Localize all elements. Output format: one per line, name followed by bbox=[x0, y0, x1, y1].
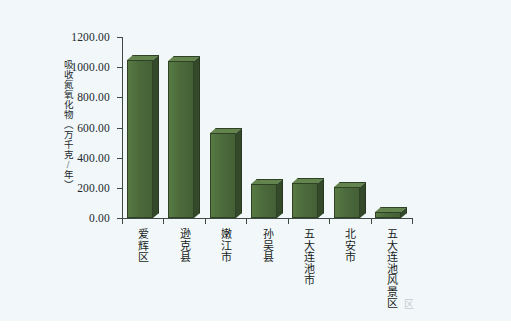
x-axis-tick bbox=[288, 218, 289, 224]
y-axis-tick-label: 1000.00 bbox=[0, 61, 110, 73]
bar-side-face bbox=[153, 55, 159, 218]
bar bbox=[292, 178, 324, 218]
y-axis-tick-label: 1200.00 bbox=[0, 31, 110, 43]
y-axis-tick bbox=[117, 188, 122, 189]
x-axis-tick bbox=[205, 218, 206, 224]
bar-front-face bbox=[334, 187, 360, 218]
bar-front-face bbox=[168, 61, 194, 218]
bar-front-face bbox=[251, 184, 277, 218]
bar bbox=[127, 55, 159, 218]
x-axis-tick bbox=[371, 218, 372, 224]
y-axis-tick bbox=[117, 158, 122, 159]
x-axis-category-label: 嫩江市 bbox=[220, 228, 233, 263]
chart-figure: 吸收氮氧化物（万千克/年） 0.00200.00400.00600.00800.… bbox=[0, 0, 511, 335]
x-axis-category-label: 孙吴县 bbox=[261, 228, 274, 263]
y-axis-tick bbox=[117, 128, 122, 129]
bar bbox=[334, 182, 366, 218]
x-axis-category-label: 逊克县 bbox=[178, 228, 191, 263]
bar-front-face bbox=[292, 183, 318, 218]
bar-side-face bbox=[277, 179, 283, 218]
y-axis-tick-label: 0.00 bbox=[0, 212, 110, 224]
x-axis-category-label: 五大连池市 bbox=[302, 228, 315, 286]
y-axis-tick-label: 800.00 bbox=[0, 91, 110, 103]
bar-front-face bbox=[210, 133, 236, 218]
bar bbox=[375, 207, 407, 218]
x-axis-line bbox=[122, 218, 413, 219]
bar bbox=[251, 179, 283, 218]
y-axis-tick-label: 600.00 bbox=[0, 122, 110, 134]
x-axis-tick bbox=[412, 218, 413, 224]
x-axis-category-label: 五大连池风景区 bbox=[385, 228, 398, 309]
x-axis-category-label: 北安市 bbox=[344, 228, 357, 263]
bar bbox=[168, 56, 200, 218]
bar bbox=[210, 128, 242, 218]
bar-side-face bbox=[360, 182, 366, 218]
bar-side-face bbox=[194, 56, 200, 218]
bar-front-face bbox=[127, 60, 153, 218]
y-axis-tick-label: 200.00 bbox=[0, 182, 110, 194]
x-axis-tick bbox=[163, 218, 164, 224]
x-axis-tick bbox=[329, 218, 330, 224]
y-axis-tick bbox=[117, 67, 122, 68]
bar-front-face bbox=[375, 212, 401, 218]
corner-mark: 区 bbox=[404, 296, 414, 311]
y-axis-tick bbox=[117, 37, 122, 38]
bar-side-face bbox=[236, 128, 242, 218]
x-axis-tick bbox=[122, 218, 123, 224]
x-axis-category-label: 爱辉区 bbox=[137, 228, 150, 263]
caption-strip bbox=[0, 321, 511, 335]
y-axis-tick-label: 400.00 bbox=[0, 152, 110, 164]
bar-side-face bbox=[318, 178, 324, 218]
y-axis-tick bbox=[117, 97, 122, 98]
x-axis-tick bbox=[246, 218, 247, 224]
